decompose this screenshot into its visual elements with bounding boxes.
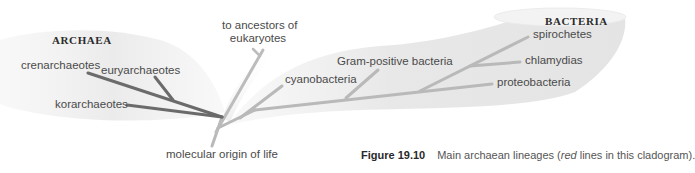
caption-emphasis: red <box>561 149 577 161</box>
eukaryote-fork-line <box>253 49 260 56</box>
crenarchaeotes-label: crenarchaeotes <box>21 59 100 72</box>
root-label: molecular origin of life <box>166 148 278 161</box>
gram-positive-bacteria-label: Gram-positive bacteria <box>337 55 453 68</box>
bacteria-group-label: BACTERIA <box>545 15 608 27</box>
spirochetes-label: spirochetes <box>533 28 592 41</box>
caption-text-after: lines in this cladogram). <box>577 149 695 161</box>
cyanobacteria-label: cyanobacteria <box>285 73 357 86</box>
archaea-group-label: ARCHAEA <box>52 34 112 46</box>
figure-number: Figure 19.10 <box>361 149 425 161</box>
euryarchaeotes-label: euryarchaeotes <box>101 64 180 77</box>
eukaryote-label-line1: to ancestors of <box>222 19 294 32</box>
eukaryote-label-line2: eukaryotes <box>222 32 294 45</box>
figure-caption: Figure 19.10Main archaean lineages (red … <box>361 149 695 161</box>
korarchaeotes-label: korarchaeotes <box>55 98 128 111</box>
proteobacteria-label: proteobacteria <box>497 76 571 89</box>
caption-text-before: Main archaean lineages ( <box>437 149 561 161</box>
eukaryote-ancestors-label: to ancestors of eukaryotes <box>222 19 294 45</box>
chlamydias-label: chlamydias <box>525 54 583 67</box>
